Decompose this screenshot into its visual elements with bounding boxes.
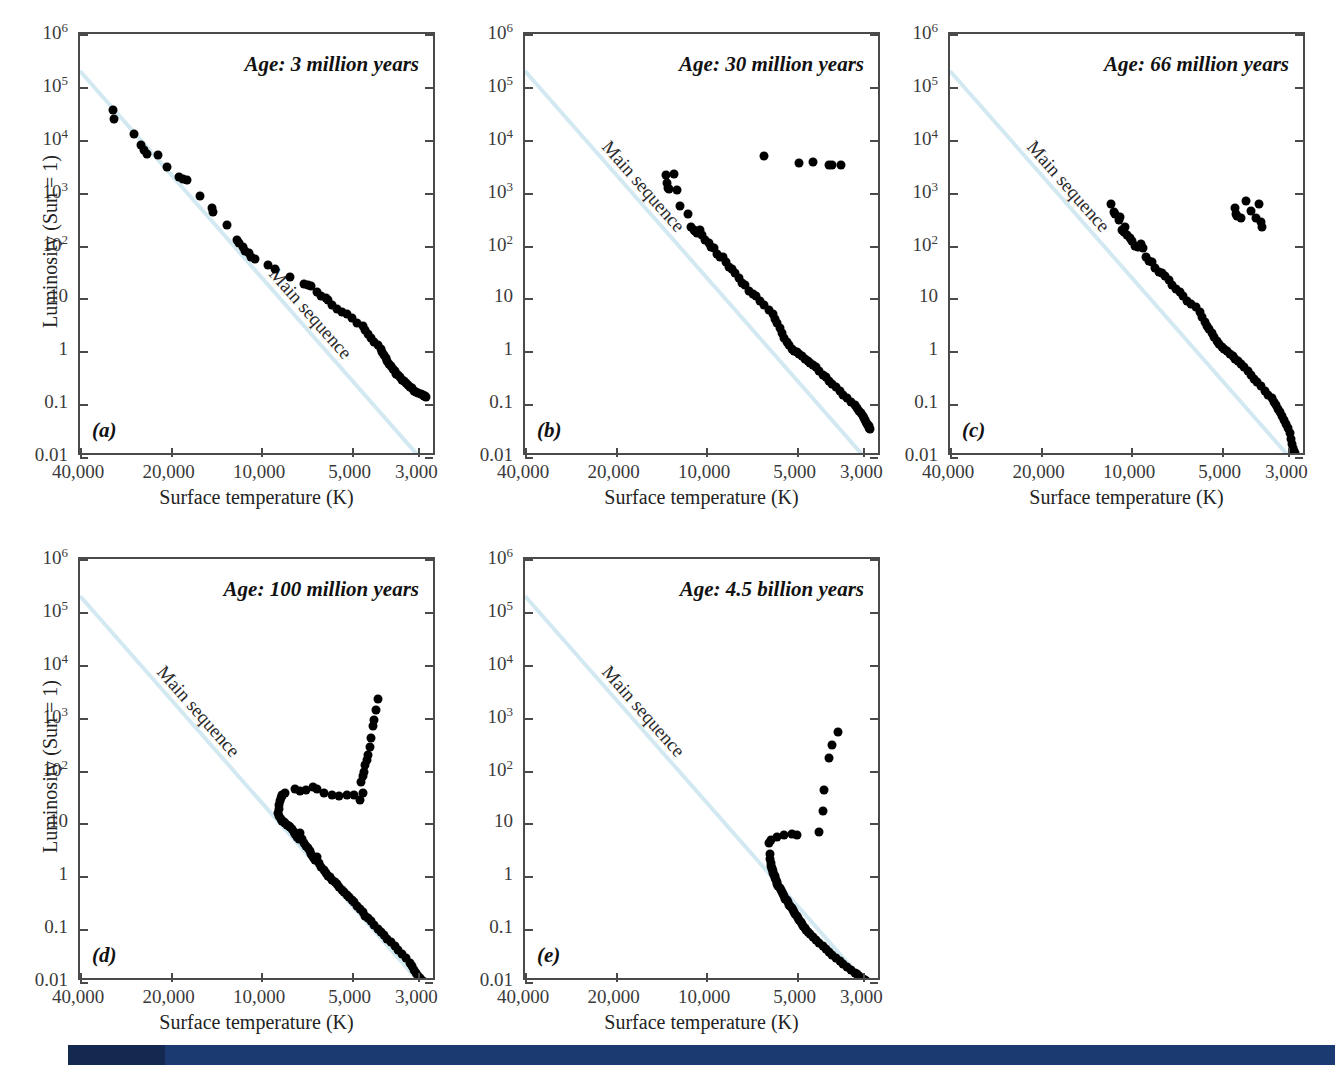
data-point	[1115, 212, 1124, 221]
y-tick-mark	[425, 404, 433, 406]
x-tick-label: 20,000	[587, 986, 639, 1008]
y-tick-label: 106	[488, 545, 514, 569]
age-title: Age: 66 million years	[1104, 52, 1289, 77]
data-point	[825, 754, 834, 763]
y-tick-label: 106	[43, 20, 69, 44]
y-tick-mark	[870, 140, 878, 142]
x-axis: 40,00020,00010,0005,0003,000	[948, 457, 1305, 483]
x-tick-label: 40,000	[497, 986, 549, 1008]
y-tick-mark	[80, 823, 88, 825]
y-tick-mark	[425, 665, 433, 667]
y-tick-label: 102	[488, 756, 514, 780]
data-point	[364, 750, 373, 759]
age-title: Age: 30 million years	[679, 52, 864, 77]
data-point	[163, 162, 172, 171]
y-tick-mark	[1295, 298, 1303, 300]
y-tick-mark	[80, 140, 88, 142]
x-axis: 40,00020,00010,0005,0003,000	[78, 457, 435, 483]
main-sequence-line	[80, 559, 433, 978]
x-tick-label: 3,000	[840, 461, 883, 483]
y-tick-mark	[80, 559, 88, 561]
y-tick-mark	[425, 771, 433, 773]
data-point	[195, 191, 204, 200]
y-tick-mark	[870, 298, 878, 300]
y-axis-title: Luminosity (Sun = 1)	[39, 42, 62, 442]
data-point	[373, 694, 382, 703]
data-point	[183, 175, 192, 184]
x-tick-label: 3,000	[1265, 461, 1308, 483]
x-tick-mark	[863, 973, 865, 982]
data-point	[1255, 200, 1264, 209]
y-tick-mark	[870, 34, 878, 36]
x-tick-mark	[261, 448, 263, 457]
y-tick-mark	[80, 34, 88, 36]
x-tick-label: 20,000	[587, 461, 639, 483]
y-tick-label: 10	[494, 285, 513, 307]
data-point	[358, 789, 367, 798]
y-axis-title: Luminosity (Sun = 1)	[39, 567, 62, 967]
y-tick-mark	[870, 718, 878, 720]
y-tick-mark	[870, 612, 878, 614]
y-tick-mark	[80, 246, 88, 248]
y-tick-mark	[425, 246, 433, 248]
plot-inner: Main sequence	[950, 34, 1303, 453]
panel-letter: (d)	[92, 943, 117, 968]
y-tick-mark	[950, 140, 958, 142]
y-tick-mark	[1295, 351, 1303, 353]
data-point	[683, 209, 692, 218]
y-tick-mark	[870, 823, 878, 825]
y-tick-mark	[1295, 87, 1303, 89]
y-tick-mark	[525, 404, 533, 406]
y-tick-label: 105	[488, 598, 514, 622]
caption-number-block	[68, 1045, 165, 1065]
y-tick-label: 104	[488, 651, 514, 675]
caption-bar	[0, 1041, 1335, 1065]
age-title: Age: 100 million years	[224, 577, 419, 602]
data-point	[154, 150, 163, 159]
y-tick-mark	[525, 612, 533, 614]
y-tick-mark	[525, 246, 533, 248]
hr-panel-c: 1061051041031021010.10.01Main sequenceAg…	[888, 20, 1315, 523]
y-tick-mark	[525, 34, 533, 36]
y-tick-label: 0.1	[489, 391, 513, 413]
data-point	[281, 788, 290, 797]
x-tick-mark	[1131, 448, 1133, 457]
x-tick-mark	[1041, 448, 1043, 457]
age-title: Age: 3 million years	[245, 52, 419, 77]
data-point	[1241, 196, 1250, 205]
y-tick-mark	[80, 612, 88, 614]
data-point	[676, 201, 685, 210]
x-tick-label: 10,000	[233, 986, 285, 1008]
y-tick-label: 1	[929, 338, 939, 360]
x-tick-mark	[1222, 448, 1224, 457]
y-tick-mark	[1295, 34, 1303, 36]
x-tick-mark	[706, 448, 708, 457]
x-tick-label: 40,000	[52, 461, 104, 483]
x-tick-label: 5,000	[773, 461, 816, 483]
y-tick-mark	[425, 559, 433, 561]
y-tick-mark	[525, 140, 533, 142]
y-tick-label: 0.1	[489, 916, 513, 938]
x-tick-mark	[1288, 448, 1290, 457]
x-axis-title: Surface temperature (K)	[523, 1011, 880, 1034]
x-axis: 40,00020,00010,0005,0003,000	[523, 982, 880, 1008]
main-sequence-line	[525, 559, 878, 978]
data-point	[795, 158, 804, 167]
plot-area-b: Main sequenceAge: 30 million years(b)	[523, 32, 880, 455]
y-tick-label: 103	[488, 703, 514, 727]
x-axis: 40,00020,00010,0005,0003,000	[78, 982, 435, 1008]
data-point	[319, 788, 328, 797]
y-tick-mark	[80, 87, 88, 89]
y-tick-mark	[950, 87, 958, 89]
y-tick-mark	[525, 771, 533, 773]
y-tick-mark	[80, 351, 88, 353]
y-tick-mark	[950, 193, 958, 195]
x-tick-label: 3,000	[395, 461, 438, 483]
y-tick-label: 1	[504, 338, 514, 360]
x-axis: 40,00020,00010,0005,0003,000	[523, 457, 880, 483]
plot-inner: Main sequence	[525, 559, 878, 978]
x-tick-mark	[171, 448, 173, 457]
y-tick-mark	[80, 771, 88, 773]
y-tick-mark	[1295, 193, 1303, 195]
y-tick-label: 106	[488, 20, 514, 44]
